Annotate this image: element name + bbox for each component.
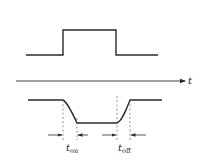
time-axis-label: t	[188, 75, 193, 86]
toff-label: toff	[118, 142, 132, 155]
switching-diagram: t ton toff	[0, 0, 204, 164]
input-pulse	[26, 30, 158, 55]
ton-label: ton	[66, 142, 78, 155]
output-waveform	[28, 100, 162, 123]
